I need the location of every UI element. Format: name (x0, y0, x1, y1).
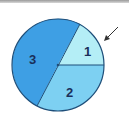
center-point (57, 64, 60, 67)
pie-diagram: 1 2 3 (0, 0, 129, 120)
segment-label-1: 1 (84, 44, 91, 59)
pointer-arrow-line (107, 27, 118, 38)
segment-label-2: 2 (66, 85, 73, 100)
segment-label-3: 3 (29, 52, 36, 67)
